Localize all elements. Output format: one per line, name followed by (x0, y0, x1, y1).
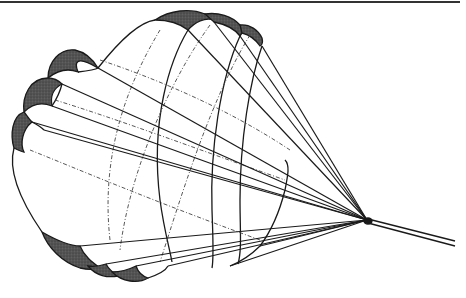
riser (364, 218, 455, 246)
parachute-illustration (0, 0, 466, 298)
